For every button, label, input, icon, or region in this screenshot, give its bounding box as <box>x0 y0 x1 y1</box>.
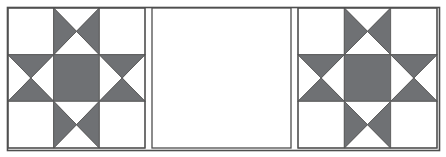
quilt-diagram-canvas <box>0 0 446 157</box>
block-cell-r2c0 <box>8 101 54 148</box>
patch-corner-light <box>8 101 54 148</box>
block-cell-r2c1 <box>54 101 100 148</box>
block-cell-r1c0 <box>8 55 54 102</box>
block-cell-r0c0 <box>8 8 54 55</box>
plain-panel <box>152 8 291 148</box>
patch-center-dark <box>54 55 100 102</box>
patch-corner-light <box>99 101 145 148</box>
block-cell-r0c1 <box>54 8 100 55</box>
block-cell-r2c0 <box>298 101 344 148</box>
quilt-figure <box>0 0 446 157</box>
block-cell-r1c2 <box>99 55 145 102</box>
block-cell-r1c1 <box>344 55 390 102</box>
block-cell-r0c0 <box>298 8 344 55</box>
patch-corner-light <box>298 101 344 148</box>
block-cell-r0c1 <box>344 8 390 55</box>
block-cell-r2c2 <box>391 101 437 148</box>
patch-corner-light <box>391 8 437 55</box>
quilt-render-root <box>8 8 440 151</box>
quilt-block-1 <box>8 8 145 148</box>
patch-corner-light <box>99 8 145 55</box>
quilt-block-3 <box>298 8 437 148</box>
block-cell-r2c1 <box>344 101 390 148</box>
patch-center-dark <box>344 55 390 102</box>
patch-corner-light <box>298 8 344 55</box>
patch-corner-light <box>8 8 54 55</box>
block-cell-r0c2 <box>99 8 145 55</box>
block-cell-r2c2 <box>99 101 145 148</box>
block-cell-r1c1 <box>54 55 100 102</box>
block-cell-r1c0 <box>298 55 344 102</box>
patch-corner-light <box>391 101 437 148</box>
block-cell-r1c2 <box>391 55 437 102</box>
block-cell-r0c2 <box>391 8 437 55</box>
